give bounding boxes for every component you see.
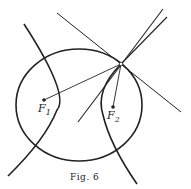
f1-subscript: 1 — [46, 108, 51, 117]
f1-letter: F — [38, 102, 46, 115]
ellipse-tangent-line — [57, 13, 181, 112]
f2-subscript: 2 — [115, 115, 120, 124]
intersection-point — [119, 62, 123, 66]
focus-f2-label: F2 — [107, 109, 120, 124]
confocal-conics-diagram — [0, 0, 191, 189]
extension-line — [121, 17, 167, 64]
f2-letter: F — [107, 109, 115, 122]
focus-f1-label: F1 — [38, 102, 51, 117]
figure-caption: Fig. 6 — [70, 172, 99, 182]
